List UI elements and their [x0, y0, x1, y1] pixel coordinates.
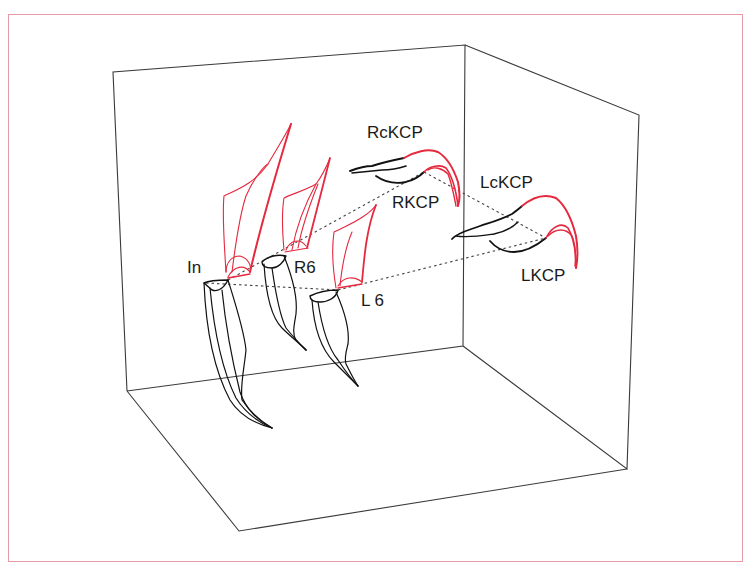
label-lkcp: LKCP [521, 266, 565, 285]
label-lckcp: LcKCP [480, 173, 533, 192]
3d-scene: In R6 L 6 RcKCP RKCP LcKCP LKCP [0, 0, 753, 568]
tooth-r6-final [283, 158, 331, 252]
label-rkcp: RKCP [392, 193, 439, 212]
tooth-in [204, 124, 291, 428]
label-r6: R6 [294, 258, 316, 277]
tooth-in-initial [204, 280, 272, 428]
right-wall [463, 45, 639, 469]
back-wall [113, 45, 465, 391]
floor [127, 391, 627, 531]
label-rckcp: RcKCP [367, 123, 423, 142]
link-l6-lkcp [338, 238, 546, 290]
label-l6: L 6 [361, 291, 384, 310]
bounding-box [113, 45, 639, 531]
tooth-l6-initial [310, 290, 358, 386]
tooth-l6-final [333, 205, 376, 288]
tooth-lkcp [452, 196, 578, 268]
link-in-rkcp [228, 172, 424, 280]
label-in: In [187, 258, 201, 277]
